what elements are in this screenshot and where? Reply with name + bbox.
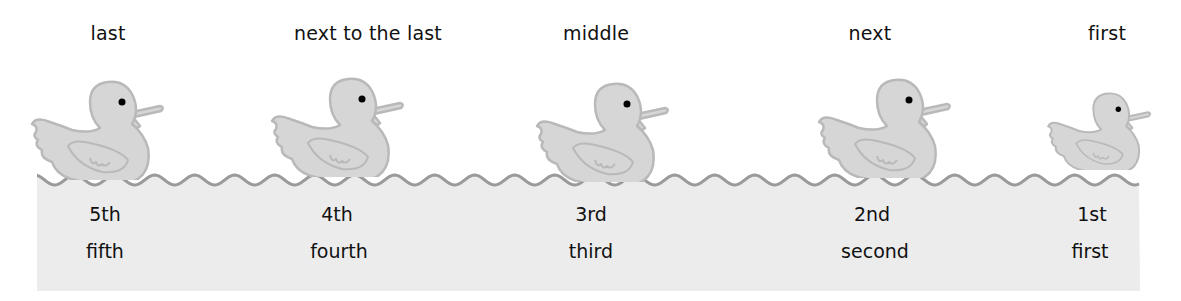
position-label-middle: middle [563, 22, 629, 44]
position-label-last: last [90, 22, 125, 44]
ordinal-3rd: 3rd [575, 203, 607, 225]
ordinal-1st: 1st [1077, 203, 1106, 225]
duck-icon [28, 80, 168, 184]
ordinal-word-fourth: fourth [310, 240, 368, 262]
water [37, 168, 1140, 291]
position-label-first: first [1088, 22, 1126, 44]
ordinal-word-second: second [841, 240, 909, 262]
duck-icon [268, 77, 408, 181]
ordinal-2nd: 2nd [854, 203, 890, 225]
ordinal-word-fifth: fifth [86, 240, 124, 262]
ordinal-word-first: first [1071, 240, 1108, 262]
duck-icon [1045, 92, 1154, 174]
position-label-next-to-last: next to the last [294, 22, 442, 44]
position-label-next: next [849, 22, 892, 44]
ordinal-5th: 5th [89, 203, 121, 225]
ordinal-4th: 4th [321, 203, 353, 225]
duck-icon [533, 82, 673, 186]
duck-icon [815, 78, 955, 182]
ordinal-word-third: third [569, 240, 613, 262]
